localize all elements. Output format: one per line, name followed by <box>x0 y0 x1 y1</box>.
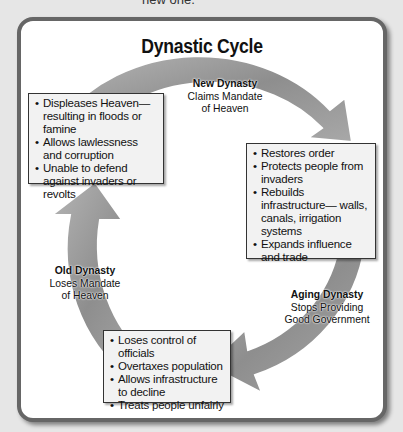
box-new-dynasty-actions: Restores order Protects people from inva… <box>246 143 376 259</box>
stage-label-new-dynasty: New Dynasty Claims Mandate of Heaven <box>176 77 275 115</box>
list-item: Allows lawlessness and corruption <box>35 136 159 162</box>
stage-heading: Old Dynasty <box>45 264 126 277</box>
stage-subheading: of Heaven <box>45 289 126 302</box>
stage-label-old-dynasty: Old Dynasty Loses Mandate of Heaven <box>45 264 126 302</box>
box-old-dynasty-failures: Displeases Heaven— resulting in floods o… <box>28 93 164 184</box>
stage-subheading: Good Government <box>269 313 386 326</box>
stage-subheading: Stops Providing <box>269 301 386 314</box>
list-item: Rebuilds infrastructure— walls, canals, … <box>253 186 371 238</box>
list-item: Unable to defend against invaders or rev… <box>35 162 159 201</box>
box-aging-dynasty-decline: Loses control of officials Overtaxes pop… <box>103 330 231 403</box>
list-item: Overtaxes population <box>110 360 226 373</box>
stage-heading: Aging Dynasty <box>269 288 386 301</box>
list-item: Displeases Heaven— resulting in floods o… <box>35 97 159 136</box>
list-item: Protects people from invaders <box>253 160 371 186</box>
stage-subheading: of Heaven <box>176 102 275 115</box>
list-item: Treats people unfairly <box>110 399 226 412</box>
stage-heading: New Dynasty <box>176 77 275 90</box>
stage-label-aging-dynasty: Aging Dynasty Stops Providing Good Gover… <box>269 288 386 326</box>
list-item: Expands influence and trade <box>253 238 371 264</box>
stage-subheading: Claims Mandate <box>176 90 275 103</box>
stage-subheading: Loses Mandate <box>45 277 126 290</box>
list-item: Allows infrastructure to decline <box>110 373 226 399</box>
list-item: Restores order <box>253 147 371 160</box>
list-item: Loses control of officials <box>110 334 226 360</box>
